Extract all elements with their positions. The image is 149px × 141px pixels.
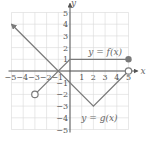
y-tick-label: −4 [56, 114, 68, 123]
y-tick-label: −2 [56, 90, 68, 99]
y-tick-label: −3 [56, 102, 68, 111]
y-tick-label: 3 [63, 32, 68, 41]
function-graph: −5−4−3−2−11234554321−1−2−3−4−5 x y y = f… [0, 0, 149, 141]
x-axis-label: x [141, 66, 146, 76]
curves [12, 24, 132, 106]
x-tick-label: 2 [91, 73, 96, 82]
x-tick-label: −4 [16, 73, 28, 82]
x-tick-label: −3 [28, 73, 40, 82]
x-tick-label: −2 [40, 73, 52, 82]
g-function-label: y = g(x) [80, 113, 118, 123]
y-axis-label: y [70, 0, 77, 8]
y-tick-label: 5 [63, 9, 68, 18]
y-tick-label: 4 [63, 20, 68, 29]
x-tick-label: 3 [103, 73, 108, 82]
open-endpoint [32, 91, 38, 97]
axes [9, 4, 138, 133]
open-endpoint [125, 68, 131, 74]
x-tick-label: −5 [5, 73, 17, 82]
y-tick-label: −1 [56, 79, 68, 88]
y-tick-label: 2 [63, 44, 68, 53]
x-tick-label: 1 [79, 73, 84, 82]
closed-endpoint [125, 56, 131, 62]
y-tick-label: −5 [56, 126, 68, 135]
f-function-label: y = f(x) [87, 47, 122, 57]
